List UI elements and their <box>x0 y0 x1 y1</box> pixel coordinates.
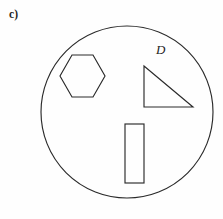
set-label-d: D <box>156 43 165 56</box>
universe-circle <box>41 26 213 198</box>
hexagon-shape <box>60 55 105 97</box>
geometry-diagram <box>0 0 223 219</box>
part-label: c) <box>9 9 18 21</box>
rectangle-shape <box>125 124 144 183</box>
figure-container: c) D <box>0 0 223 219</box>
right-triangle-shape <box>144 66 193 107</box>
